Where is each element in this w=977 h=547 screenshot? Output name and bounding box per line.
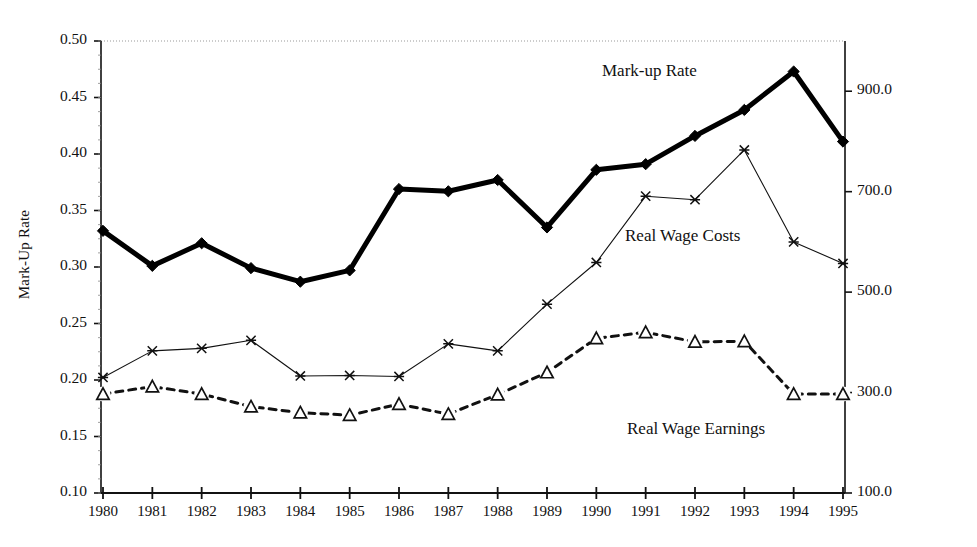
datapoint-real-wage-costs (246, 336, 256, 345)
y-axis-left-tick-label: 0.10 (17, 482, 87, 500)
datapoint-real-wage-costs (591, 258, 601, 267)
y-axis-left-tick-label: 0.45 (17, 87, 87, 105)
datapoint-real-wage-costs (394, 372, 404, 381)
datapoint-real-wage-costs (690, 195, 700, 204)
y-axis-right-tick-label: 500.0 (857, 281, 927, 299)
series-label-real-wage-costs: Real Wage Costs (625, 226, 740, 246)
series-line-real-wage-earnings (103, 332, 843, 415)
plot-canvas (0, 0, 977, 547)
datapoint-real-wage-costs (197, 344, 207, 353)
datapoint-real-wage-costs (345, 371, 355, 380)
y-axis-left-tick-label: 0.35 (17, 200, 87, 218)
datapoint-real-wage-costs (739, 145, 749, 154)
y-axis-right-tick-label: 900.0 (857, 80, 927, 98)
datapoint-real-wage-costs (98, 373, 108, 382)
y-axis-right-tick-label: 700.0 (857, 181, 927, 199)
y-axis-left-tick-label: 0.40 (17, 143, 87, 161)
datapoint-real-wage-costs (641, 192, 651, 201)
chart-figure: Mark-Up Rate Real Wage Costs (1980 Price… (0, 0, 977, 547)
series-label-markup-rate: Mark-up Rate (602, 61, 697, 81)
datapoint-real-wage-costs (147, 346, 157, 355)
datapoint-real-wage-costs (542, 300, 552, 309)
y-axis-left-tick-label: 0.30 (17, 256, 87, 274)
y-axis-left-tick-label: 0.25 (17, 313, 87, 331)
datapoint-real-wage-costs (443, 339, 453, 348)
series-label-real-wage-earnings: Real Wage Earnings (627, 419, 765, 439)
x-axis-tick-label: 1995 (813, 503, 873, 520)
datapoint-real-wage-costs (789, 237, 799, 246)
series-line-markup-rate (103, 72, 843, 282)
datapoint-markup-rate (295, 276, 306, 287)
y-axis-left-tick-label: 0.20 (17, 369, 87, 387)
y-axis-left-tick-label: 0.50 (17, 30, 87, 48)
datapoint-real-wage-costs (493, 346, 503, 355)
y-axis-left-tick-label: 0.15 (17, 426, 87, 444)
datapoint-real-wage-costs (838, 259, 848, 268)
datapoint-real-wage-costs (295, 371, 305, 380)
y-axis-right-tick-label: 100.0 (857, 482, 927, 500)
datapoint-markup-rate (443, 186, 454, 197)
y-axis-right-tick-label: 300.0 (857, 382, 927, 400)
